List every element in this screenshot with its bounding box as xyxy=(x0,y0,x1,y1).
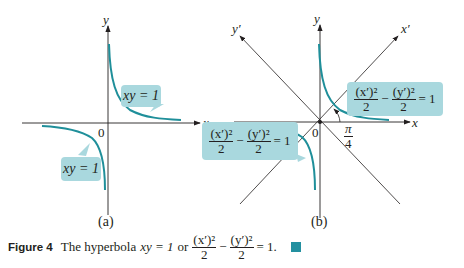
bubble-rotated-eq-lower: (x′)²2 − (y′)²2 = 1 xyxy=(202,122,298,160)
term1-numerator: (x′)² xyxy=(192,233,216,248)
y-axis-label-a: y xyxy=(103,13,109,26)
x-prime-label: x′ xyxy=(401,22,410,35)
caption-eq1: xy = 1 xyxy=(140,239,173,255)
angle-arc xyxy=(334,109,340,122)
term2-numerator: (y′)² xyxy=(230,233,254,248)
term1-denominator: 2 xyxy=(201,248,208,262)
minus-sign: − xyxy=(219,239,226,255)
y-axis-label-b: y xyxy=(314,12,320,25)
term1-denominator: 2 xyxy=(218,142,225,156)
term1-denominator: 2 xyxy=(363,100,370,114)
angle-numerator: π xyxy=(344,122,353,137)
origin-label-b: 0 xyxy=(312,126,319,139)
end-of-example-square-icon xyxy=(291,242,301,252)
hyperbola-branch-q1-a xyxy=(109,44,181,120)
figure-label: Figure 4 xyxy=(8,241,53,253)
term2-denominator: 2 xyxy=(400,100,407,114)
equation-text: xy = 1 xyxy=(63,161,99,177)
origin-dot-b xyxy=(318,120,322,124)
origin-label-a: 0 xyxy=(98,126,105,139)
equation-text: xy = 1 xyxy=(123,88,159,104)
panel-label-a: (a) xyxy=(98,215,114,229)
bubble-xy1-upper: xy = 1 xyxy=(121,85,161,107)
rhs: = 1. xyxy=(257,239,277,255)
figure-caption: Figure 4 The hyperbola xy = 1 or (x′)²2 … xyxy=(0,232,464,262)
term2-denominator: 2 xyxy=(255,142,262,156)
term1-numerator: (x′)² xyxy=(354,85,378,100)
term2-numerator: (y′)² xyxy=(247,127,271,142)
rhs: = 1 xyxy=(419,91,436,107)
x-axis-label-b: x xyxy=(412,116,418,129)
bubble-pointer-lower-a xyxy=(78,143,90,156)
rhs: = 1 xyxy=(274,133,291,149)
bubble-rotated-eq-upper: (x′)²2 − (y′)²2 = 1 xyxy=(347,82,443,116)
term1-numerator: (x′)² xyxy=(209,127,233,142)
caption-text: The hyperbola xyxy=(61,239,136,255)
y-prime-label: y′ xyxy=(232,22,241,35)
minus-sign: − xyxy=(236,133,243,149)
minus-sign: − xyxy=(381,91,388,107)
bubble-xy1-lower: xy = 1 xyxy=(61,157,101,181)
caption-or: or xyxy=(178,239,189,255)
angle-label: π4 xyxy=(344,122,353,150)
panel-label-b: (b) xyxy=(311,215,327,229)
angle-denominator: 4 xyxy=(345,137,352,151)
term2-numerator: (y′)² xyxy=(392,85,416,100)
term2-denominator: 2 xyxy=(238,248,245,262)
